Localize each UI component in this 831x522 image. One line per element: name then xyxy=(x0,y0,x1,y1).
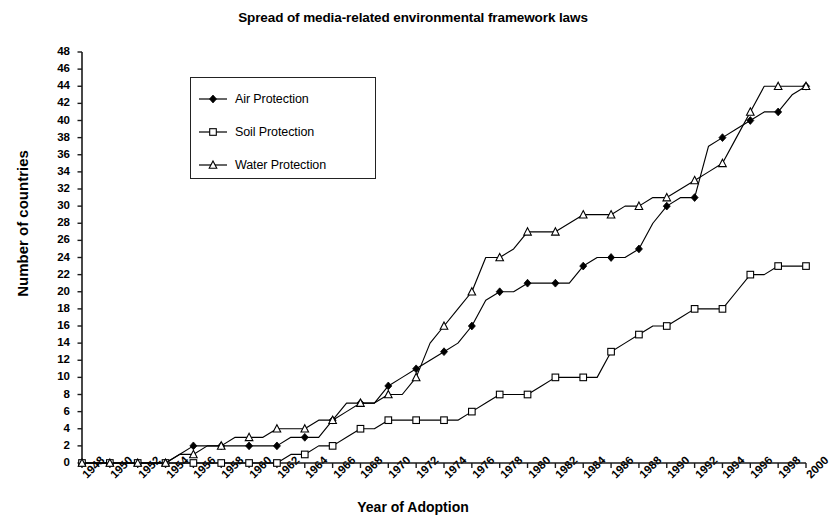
data-point xyxy=(496,288,503,296)
data-point xyxy=(691,306,698,313)
data-point xyxy=(246,442,253,450)
legend-item-water-protection: Water Protection xyxy=(191,155,375,175)
data-point xyxy=(747,108,755,115)
axis-lines xyxy=(78,52,807,468)
data-point xyxy=(608,254,615,262)
data-point xyxy=(246,460,253,467)
series-air-protection xyxy=(79,82,810,467)
data-point xyxy=(301,451,308,458)
data-point xyxy=(301,433,308,441)
data-point xyxy=(580,374,587,381)
data-point xyxy=(635,245,642,253)
data-point xyxy=(608,348,615,355)
legend-item-soil-protection: Soil Protection xyxy=(191,122,375,142)
data-point xyxy=(412,373,420,380)
data-point xyxy=(691,176,699,183)
data-point xyxy=(190,442,197,450)
chart-legend: Air ProtectionSoil ProtectionWater Prote… xyxy=(190,77,376,179)
data-point xyxy=(552,279,559,287)
legend-item-label: Water Protection xyxy=(235,158,326,172)
data-point xyxy=(468,288,476,295)
data-point xyxy=(441,348,448,356)
data-series-group xyxy=(78,82,810,467)
data-point xyxy=(496,391,503,398)
data-point xyxy=(273,442,280,450)
data-point xyxy=(441,417,448,424)
data-point xyxy=(274,460,281,467)
data-point xyxy=(413,417,420,424)
data-point xyxy=(719,134,726,142)
data-point xyxy=(719,306,726,313)
data-point xyxy=(524,279,531,287)
data-point xyxy=(747,117,754,125)
data-point xyxy=(385,417,392,424)
data-point xyxy=(218,460,225,467)
data-point xyxy=(524,391,531,398)
data-point xyxy=(329,443,336,450)
data-point xyxy=(190,460,197,467)
data-point xyxy=(469,408,476,415)
open-square-icon xyxy=(191,123,235,141)
series-water-protection xyxy=(78,82,810,466)
data-point xyxy=(691,194,698,202)
data-point xyxy=(747,271,754,278)
data-point xyxy=(357,425,364,432)
legend-item-label: Air Protection xyxy=(235,92,309,106)
data-point xyxy=(803,263,810,270)
series-soil-protection xyxy=(79,263,810,467)
data-point xyxy=(719,159,727,166)
data-point xyxy=(552,374,559,381)
open-triangle-icon xyxy=(191,156,235,174)
legend-item-air-protection: Air Protection xyxy=(191,89,375,109)
data-point xyxy=(775,263,782,270)
data-point xyxy=(636,331,643,338)
filled-diamond-icon xyxy=(191,90,235,108)
data-point xyxy=(663,323,670,330)
legend-item-label: Soil Protection xyxy=(235,125,314,139)
